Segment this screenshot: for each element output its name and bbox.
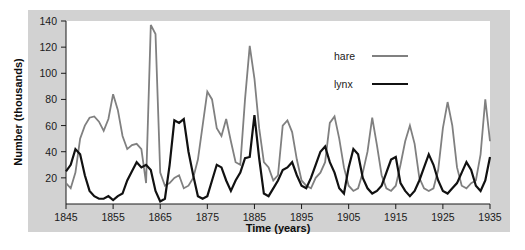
x-tick-label: 1845 [54,211,78,223]
x-tick-label: 1925 [431,211,455,223]
y-tick-label: 80 [45,93,57,105]
x-axis-title: Time (years) [246,222,311,234]
y-axis-title: Number (thousands) [12,58,24,166]
y-axis-ticks: 20406080100120140 [39,15,66,184]
hare-lynx-line-chart: 20406080100120140 1845185518651875188518… [0,0,525,250]
y-tick-label: 40 [45,146,57,158]
x-tick-label: 1875 [196,211,220,223]
y-tick-label: 120 [39,41,57,53]
x-tick-label: 1905 [337,211,361,223]
x-tick-label: 1865 [149,211,173,223]
chart-figure: 20406080100120140 1845185518651875188518… [0,0,525,250]
legend-label-lynx: lynx [334,78,353,90]
y-tick-label: 60 [45,120,57,132]
y-tick-label: 100 [39,67,57,79]
legend-label-hare: hare [334,50,355,62]
x-tick-label: 1935 [478,211,502,223]
y-tick-label: 140 [39,15,57,27]
y-tick-label: 20 [45,172,57,184]
x-tick-label: 1855 [101,211,125,223]
x-axis-ticks: 1845185518651875188518951905191519251935 [54,204,502,223]
x-tick-label: 1915 [384,211,408,223]
